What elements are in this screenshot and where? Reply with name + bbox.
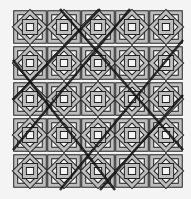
geometric-pattern-artwork <box>0 0 191 199</box>
